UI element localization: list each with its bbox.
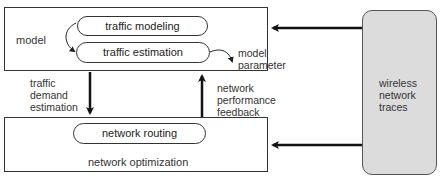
model-label: model — [16, 34, 46, 47]
traces-label-3: traces — [379, 101, 408, 114]
traffic-modeling-node: traffic modeling — [77, 16, 208, 36]
traffic-estimation-node: traffic estimation — [76, 42, 210, 63]
traffic-demand-label-1: traffic — [30, 77, 55, 90]
network-feedback-label-1: network — [217, 82, 254, 95]
network-optimization-label: network optimization — [88, 156, 188, 169]
model-parameter-label-1: model — [238, 47, 267, 60]
network-feedback-label-2: performance — [217, 94, 276, 107]
network-routing-node: network routing — [73, 123, 206, 144]
traces-label-1: wireless — [379, 77, 417, 90]
traffic-demand-label-2: demand — [30, 89, 68, 102]
traffic-demand-label-3: estimation — [30, 101, 78, 114]
model-parameter-label-2: parameter — [238, 59, 286, 72]
traces-label-2: network — [379, 89, 416, 102]
